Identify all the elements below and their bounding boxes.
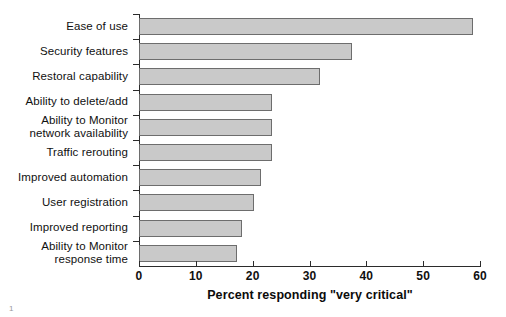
x-axis-tick-label: 40 (359, 269, 373, 283)
x-axis-tick (196, 261, 197, 267)
bar (139, 194, 254, 211)
x-axis-tick-label: 30 (303, 269, 317, 283)
x-axis-tick (423, 261, 424, 267)
y-axis-label-line: response time (0, 253, 128, 267)
plot-area (139, 14, 480, 266)
y-axis-label: Improved reporting (0, 221, 128, 235)
bar-row (139, 216, 480, 241)
bar (139, 119, 272, 136)
x-axis-tick-label: 60 (473, 269, 487, 283)
x-axis-tick (480, 261, 481, 267)
x-axis-tick (366, 261, 367, 267)
y-axis-label-line: Improved reporting (0, 221, 128, 235)
bar (139, 245, 237, 262)
y-axis-label-line: Ability to Monitor (0, 240, 128, 254)
y-axis-label-line: Ease of use (0, 20, 128, 34)
bar-row (139, 140, 480, 165)
x-axis-tick (253, 261, 254, 267)
bar (139, 43, 352, 60)
x-axis-tick-label: 20 (246, 269, 260, 283)
y-axis-label: Security features (0, 45, 128, 59)
bar-row (139, 64, 480, 89)
y-axis-label: Restoral capability (0, 70, 128, 84)
bar (139, 144, 272, 161)
y-axis-label-line: network availability (0, 127, 128, 141)
y-axis-label-line: Traffic rerouting (0, 146, 128, 160)
y-axis-tick (133, 165, 139, 166)
y-axis-tick (133, 115, 139, 116)
y-axis-label: User registration (0, 196, 128, 210)
bar (139, 94, 272, 111)
y-axis-label-line: Security features (0, 45, 128, 59)
bar-row (139, 165, 480, 190)
y-axis-tick (133, 64, 139, 65)
x-axis-title: Percent responding "very critical" (139, 288, 481, 302)
bar-row (139, 190, 480, 215)
bar (139, 220, 242, 237)
y-axis-label-line: Restoral capability (0, 70, 128, 84)
bar-chart: Ease of useSecurity featuresRestoral cap… (0, 0, 506, 317)
y-axis-tick (133, 216, 139, 217)
y-axis-label: Improved automation (0, 171, 128, 185)
bar-row (139, 14, 480, 39)
y-axis-label: Ability to Monitorresponse time (0, 240, 128, 267)
y-axis-label-line: Improved automation (0, 171, 128, 185)
y-axis-label: Ability to Monitornetwork availability (0, 114, 128, 141)
page-mark: 1 (9, 304, 13, 313)
bar-row (139, 115, 480, 140)
x-axis-tick (310, 261, 311, 267)
bar-row (139, 39, 480, 64)
y-axis-tick (133, 241, 139, 242)
y-axis-label-line: User registration (0, 196, 128, 210)
bar (139, 18, 473, 35)
y-axis-label: Traffic rerouting (0, 146, 128, 160)
x-axis-tick-label: 50 (416, 269, 430, 283)
y-axis-tick (133, 39, 139, 40)
y-axis-tick (133, 190, 139, 191)
x-axis-tick-label: 10 (189, 269, 203, 283)
bar-row (139, 90, 480, 115)
y-axis-tick (133, 90, 139, 91)
y-axis-label: Ease of use (0, 20, 128, 34)
y-axis-label: Ability to delete/add (0, 95, 128, 109)
y-axis-tick (133, 140, 139, 141)
y-axis-label-line: Ability to Monitor (0, 114, 128, 128)
y-axis-tick (133, 14, 139, 15)
x-axis-tick-label: 0 (136, 269, 143, 283)
bar (139, 169, 261, 186)
bar (139, 68, 320, 85)
y-axis-label-line: Ability to delete/add (0, 95, 128, 109)
x-axis-tick (139, 261, 140, 267)
